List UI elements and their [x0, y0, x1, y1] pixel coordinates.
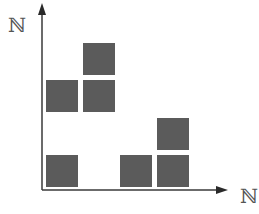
grid-cell — [83, 80, 115, 112]
x-axis-arrow-icon — [216, 186, 228, 194]
x-axis-label: ℕ — [240, 186, 258, 206]
y-axis-label: ℕ — [8, 15, 26, 35]
grid-cell — [157, 155, 189, 187]
grid-cell — [46, 155, 78, 187]
grid-cell — [83, 43, 115, 75]
y-axis-arrow-icon — [38, 3, 46, 15]
grid-cell — [46, 80, 78, 112]
grid-cell — [120, 155, 152, 187]
grid-cell — [157, 118, 189, 150]
